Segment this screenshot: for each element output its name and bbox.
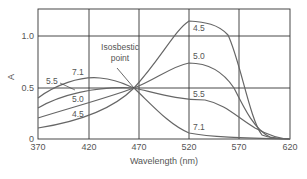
y-axis-label: A [6, 74, 16, 80]
label-left-5-5: 5.5 [46, 76, 58, 86]
x-axis-label: Wavelength (nm) [130, 156, 198, 166]
isosbestic-label-line2: point [111, 53, 130, 63]
x-tick-370: 370 [30, 142, 45, 152]
absorbance-chart: Isosbestic point 5.5 7.1 5.0 4.5 4.5 5.0… [0, 0, 307, 179]
y-tick-0-5: 0.5 [21, 83, 34, 93]
label-left-5-0: 5.0 [72, 94, 84, 104]
x-tick-470: 470 [131, 142, 146, 152]
x-tick-620: 620 [282, 142, 297, 152]
label-left-7-1: 7.1 [72, 67, 84, 77]
label-right-5-0: 5.0 [193, 51, 205, 61]
x-tick-420: 420 [81, 142, 96, 152]
x-tick-570: 570 [231, 142, 246, 152]
curves [38, 21, 290, 139]
isosbestic-label-line1: Isosbestic [101, 42, 140, 52]
label-right-5-5: 5.5 [193, 89, 205, 99]
y-tick-1-0: 1.0 [21, 31, 34, 41]
x-tick-520: 520 [181, 142, 196, 152]
leader-left-5-5 [60, 83, 75, 90]
label-right-7-1: 7.1 [193, 122, 205, 132]
label-right-4-5: 4.5 [193, 23, 205, 33]
label-left-4-5: 4.5 [72, 109, 84, 119]
